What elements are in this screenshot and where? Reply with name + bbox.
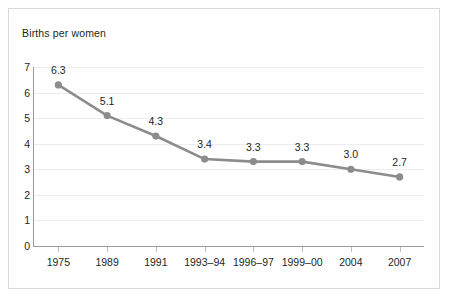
series-marker [250,158,257,165]
series-marker [396,173,403,180]
series-line-markers [0,0,450,299]
chart-figure: Births per women 76543210 19751989199119… [0,0,450,299]
series-marker [55,81,62,88]
series-marker [201,155,208,162]
data-point-label: 4.3 [149,115,164,127]
data-point-label: 3.4 [197,138,212,150]
data-point-label: 6.3 [51,64,66,76]
data-point-label: 3.0 [344,148,359,160]
data-point-label: 5.1 [100,95,115,107]
data-point-label: 2.7 [392,156,407,168]
data-point-label: 3.3 [295,141,310,153]
series-marker [104,112,111,119]
series-marker [347,166,354,173]
data-point-label: 3.3 [246,141,261,153]
series-marker [299,158,306,165]
series-marker [152,132,159,139]
